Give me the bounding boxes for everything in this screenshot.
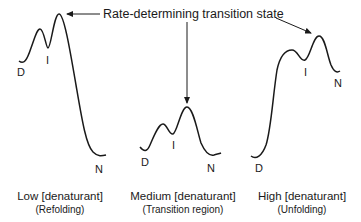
low-state-n-label: N [95, 163, 103, 175]
high-denaturant-energy-curve [251, 36, 340, 158]
high-condition-label: High [denaturant] [258, 190, 346, 203]
high-state-i-label: I [304, 66, 307, 78]
low-state-d-label: D [17, 66, 25, 78]
medium-state-i-label: I [172, 139, 175, 151]
energy-diagram-canvas [0, 0, 361, 222]
low-state-i-label: I [46, 54, 49, 66]
medium-state-d-label: D [141, 156, 149, 168]
low-condition-label: Low [denaturant] [17, 190, 103, 203]
low-denaturant-energy-curve [19, 14, 106, 156]
high-state-d-label: D [255, 162, 263, 174]
high-regime-label: (Unfolding) [278, 204, 327, 216]
low-regime-label: (Refolding) [36, 204, 85, 216]
diagram-title: Rate-determining transition state [103, 7, 284, 21]
medium-regime-label: (Transition region) [143, 204, 224, 216]
high-state-n-label: N [334, 77, 342, 89]
medium-state-n-label: N [207, 162, 215, 174]
medium-denaturant-energy-curve [140, 107, 221, 155]
medium-condition-label: Medium [denaturant] [130, 190, 235, 203]
